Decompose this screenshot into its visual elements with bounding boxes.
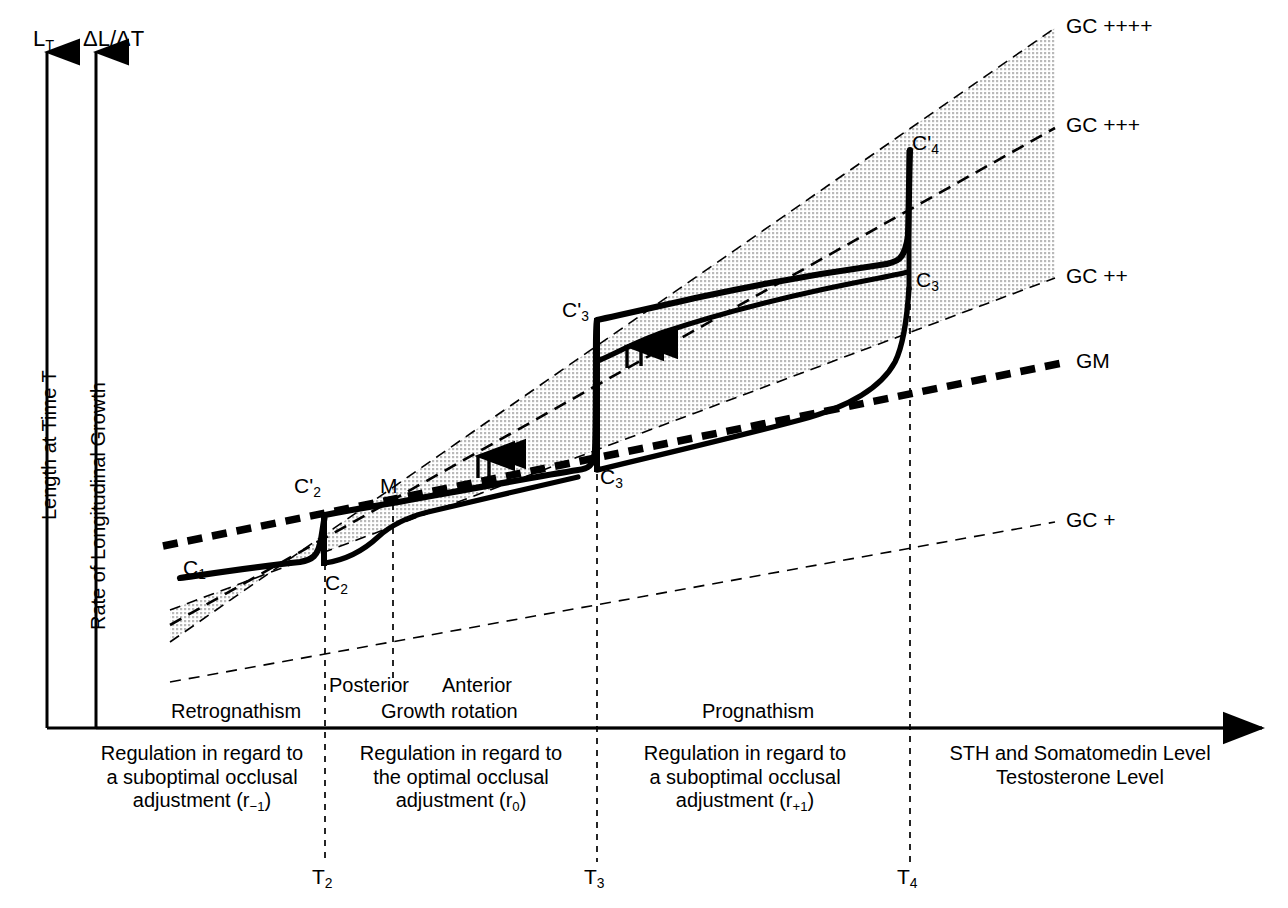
- tick-label-t3: T3: [584, 865, 605, 891]
- tick-label-t4: T4: [897, 865, 918, 891]
- regulation-3-line1: Regulation in regard to: [625, 742, 865, 766]
- legend-gc-plus3: GC +++: [1066, 113, 1140, 138]
- regulation-1-line2: a suboptimal occlusal: [82, 766, 322, 790]
- x-axis-title-line2: Testosterone Level: [930, 766, 1230, 790]
- regulation-column-1: Regulation in regard to a suboptimal occ…: [82, 742, 322, 814]
- legend-gc-plus4: GC ++++: [1066, 14, 1152, 39]
- label-prognathism: Prognathism: [702, 700, 814, 724]
- label-c1: C1: [183, 556, 206, 582]
- regulation-column-2: Regulation in regard to the optimal occl…: [341, 742, 581, 814]
- label-posterior: Posterior: [329, 674, 409, 698]
- y-axis-left-title: Length at Time T: [38, 370, 62, 520]
- regulation-3-line3: adjustment (r+1): [625, 789, 865, 814]
- x-axis-title: STH and Somatomedin Level Testosterone L…: [930, 742, 1230, 789]
- label-retrognathism: Retrognathism: [171, 700, 301, 724]
- label-growth-rotation: Growth rotation: [381, 700, 518, 724]
- tick-label-t2: T2: [312, 865, 333, 891]
- label-c2: C2: [325, 571, 348, 597]
- regulation-2-line3: adjustment (r0): [341, 789, 581, 814]
- label-c2-prime: C'2: [294, 474, 321, 500]
- regulation-1-line3: adjustment (r−1): [82, 789, 322, 814]
- label-c3-mid: C3: [600, 465, 623, 491]
- label-m: M: [380, 474, 398, 499]
- regulation-2-line2: the optimal occlusal: [341, 766, 581, 790]
- label-anterior: Anterior: [442, 674, 512, 698]
- regulation-1-line1: Regulation in regard to: [82, 742, 322, 766]
- label-c3-prime: C'3: [562, 298, 589, 324]
- y-axis-left-symbol: LT: [33, 26, 54, 54]
- x-axis-title-line1: STH and Somatomedin Level: [930, 742, 1230, 766]
- y-axis-right-title: Rate of Longitudinal Growth: [87, 382, 111, 630]
- legend-gc-plus1: GC +: [1066, 508, 1116, 533]
- gc-plus1-line: [170, 522, 1055, 682]
- y-axis-right-symbol: ΔL/ΔT: [83, 26, 144, 52]
- gc-plus3-line: [170, 128, 1055, 625]
- regulation-2-line1: Regulation in regard to: [341, 742, 581, 766]
- label-c3-right: C3: [916, 268, 939, 294]
- legend-gc-plus2: GC ++: [1066, 264, 1128, 289]
- regulation-3-line2: a suboptimal occlusal: [625, 766, 865, 790]
- label-c4-prime: C'4: [912, 131, 939, 157]
- legend-gm: GM: [1076, 349, 1110, 374]
- regulation-column-3: Regulation in regard to a suboptimal occ…: [625, 742, 865, 814]
- figure-canvas: LT ΔL/ΔT Length at Time T Rate of Longit…: [0, 0, 1288, 908]
